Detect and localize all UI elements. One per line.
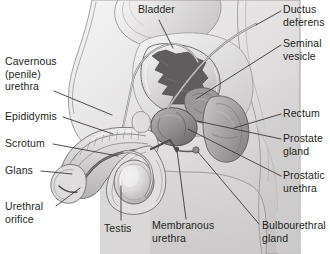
label-seminal-vesicle: Seminal vesicle [283,37,322,62]
label-scrotum: Scrotum [5,137,45,150]
male-reproductive-system-illustration [0,0,330,254]
anatomy-figure: Bladder Ductus deferens Seminal vesicle … [0,0,330,254]
label-bulbourethral-gland: Bulbourethral gland [262,219,326,244]
label-rectum: Rectum [283,107,320,120]
label-ductus-deferens: Ductus deferens [283,3,325,28]
label-testis: Testis [104,222,131,235]
label-epididymis: Epididymis [5,110,57,123]
testis-body [114,160,154,204]
label-bladder: Bladder [138,3,175,16]
label-urethral-orifice: Urethral orifice [5,200,43,225]
label-cavernous-urethra: Cavernous (penile) urethra [5,55,57,93]
pubic-symphysis [132,111,150,132]
label-glans: Glans [5,164,33,177]
label-prostatic-urethra: Prostatic urethra [283,169,325,194]
label-prostate-gland: Prostate gland [283,132,323,157]
label-membranous-urethra: Membranous urethra [152,219,214,244]
